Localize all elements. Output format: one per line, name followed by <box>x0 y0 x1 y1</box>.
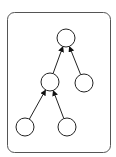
node-leaf-left <box>16 118 34 136</box>
edge-mid-right-to-root <box>70 47 81 75</box>
node-mid-left <box>41 73 59 91</box>
edge-leaf-right-to-mid-left <box>53 91 63 119</box>
edge-mid-left-to-root <box>53 47 63 74</box>
node-leaf-right <box>58 118 76 136</box>
tree-diagram <box>0 0 116 157</box>
node-group <box>16 29 93 136</box>
node-mid-right <box>75 74 93 92</box>
edge-leaf-left-to-mid-left <box>29 90 45 119</box>
node-root <box>57 29 75 47</box>
